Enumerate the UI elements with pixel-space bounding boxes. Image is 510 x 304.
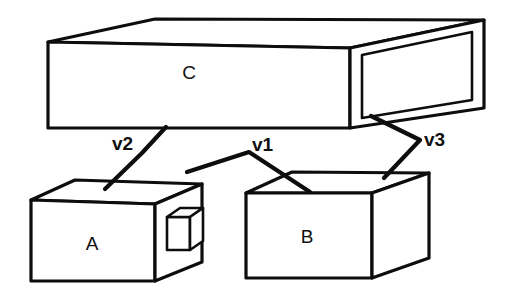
box-b-right-face [372,173,429,278]
vector-v1-label: v1 [252,134,274,155]
box-a-label: A [86,233,99,254]
diagram-canvas: C A B [0,0,510,304]
box-b-label: B [301,226,314,247]
box-b-group: B [246,172,429,278]
box-c-front-face [48,42,350,128]
box-c-label: C [182,62,196,83]
block-diagram-svg: C A B [0,0,510,304]
small-cube-front-face [167,217,190,250]
vector-v2-label: v2 [112,133,133,154]
box-a-group: A [31,180,203,281]
vector-v3-label: v3 [424,129,445,150]
box-c-group: C [48,19,484,128]
small-cube-right-face [190,208,203,250]
